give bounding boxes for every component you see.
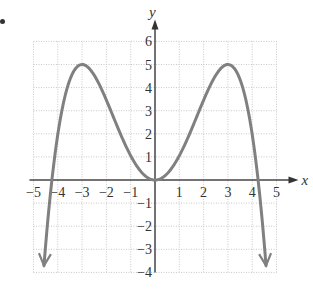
x-tick-label: −3 <box>75 185 90 200</box>
x-axis-label: x <box>301 172 309 188</box>
y-tick-label: −3 <box>137 242 152 257</box>
y-tick-label: 6 <box>145 34 152 49</box>
x-tick-label: 5 <box>273 185 280 200</box>
function-graph: xy−5−4−3−2−112345654321−1−2−3−4 <box>0 0 313 290</box>
x-tick-label: −1 <box>123 185 138 200</box>
y-tick-label: −1 <box>137 196 152 211</box>
y-tick-label: 3 <box>145 104 152 119</box>
x-tick-label: 1 <box>176 185 183 200</box>
y-tick-label: 2 <box>145 127 152 142</box>
y-tick-label: −4 <box>137 265 152 280</box>
x-tick-label: −5 <box>26 185 41 200</box>
y-tick-label: −2 <box>137 219 152 234</box>
x-tick-label: 4 <box>249 185 256 200</box>
y-axis-label: y <box>147 4 156 20</box>
y-tick-label: 4 <box>145 81 152 96</box>
x-tick-label: 3 <box>224 185 231 200</box>
y-axis-arrow-icon <box>152 19 159 29</box>
x-tick-label: 2 <box>200 185 207 200</box>
x-axis-arrow-icon <box>289 177 299 184</box>
x-tick-label: −2 <box>99 185 114 200</box>
y-tick-label: 1 <box>145 150 152 165</box>
y-tick-label: 5 <box>145 58 152 73</box>
